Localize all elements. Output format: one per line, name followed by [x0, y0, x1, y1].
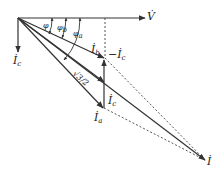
label-ib-sub: b — [95, 49, 99, 57]
label-i: İ — [207, 156, 211, 167]
label-ic: İc — [13, 55, 21, 68]
label-ic-2-sub: c — [112, 100, 116, 108]
label-ic-2: İc — [108, 95, 116, 108]
label-phia-sub: a — [79, 32, 83, 40]
phi-arc — [49, 18, 52, 34]
label-ia-sub: a — [98, 117, 102, 125]
label-i-text: İ — [207, 155, 211, 168]
label-phib: φb — [57, 24, 67, 34]
label-v: V̇ — [147, 11, 155, 22]
label-minus-ic-text: −İ — [108, 48, 122, 61]
label-minus-ic: −İc — [108, 49, 125, 62]
label-phi: φ — [43, 22, 49, 30]
dotted-ib-to-i — [105, 58, 205, 160]
label-phib-sub: b — [63, 26, 67, 34]
label-ic-sub: c — [17, 60, 21, 68]
phasors — [18, 18, 205, 160]
phasor-diagram — [0, 0, 221, 177]
label-ib: İb — [91, 44, 100, 57]
label-v-text: V̇ — [147, 10, 155, 23]
label-phia: φa — [73, 30, 83, 40]
label-phi-text: φ — [43, 21, 49, 30]
construction-lines — [104, 18, 205, 160]
dotted-ia-to-i — [104, 108, 205, 160]
label-ia: İa — [94, 112, 103, 125]
label-minus-ic-sub: c — [122, 54, 126, 62]
